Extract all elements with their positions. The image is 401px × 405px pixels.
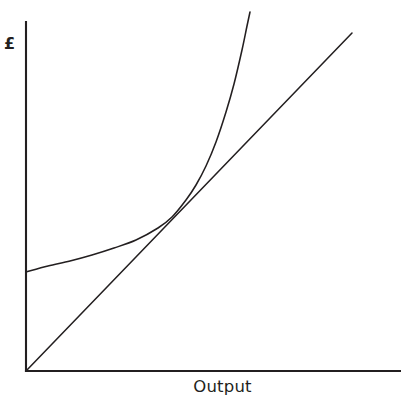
chart-canvas: [0, 0, 401, 405]
x-axis-label: Output: [22, 379, 401, 396]
chart-figure: £ Output: [0, 0, 401, 405]
y-axis-label: £: [4, 36, 15, 52]
chart-background: [0, 0, 401, 405]
